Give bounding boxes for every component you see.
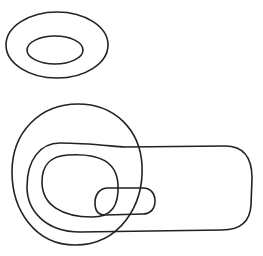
small-stadium	[95, 188, 155, 215]
diagram-canvas	[0, 0, 263, 256]
top-outer-ellipse	[6, 12, 108, 78]
big-circle	[12, 104, 142, 245]
top-inner-ellipse	[27, 36, 83, 64]
inner-loop	[42, 155, 118, 217]
curves-diagram	[0, 0, 263, 256]
